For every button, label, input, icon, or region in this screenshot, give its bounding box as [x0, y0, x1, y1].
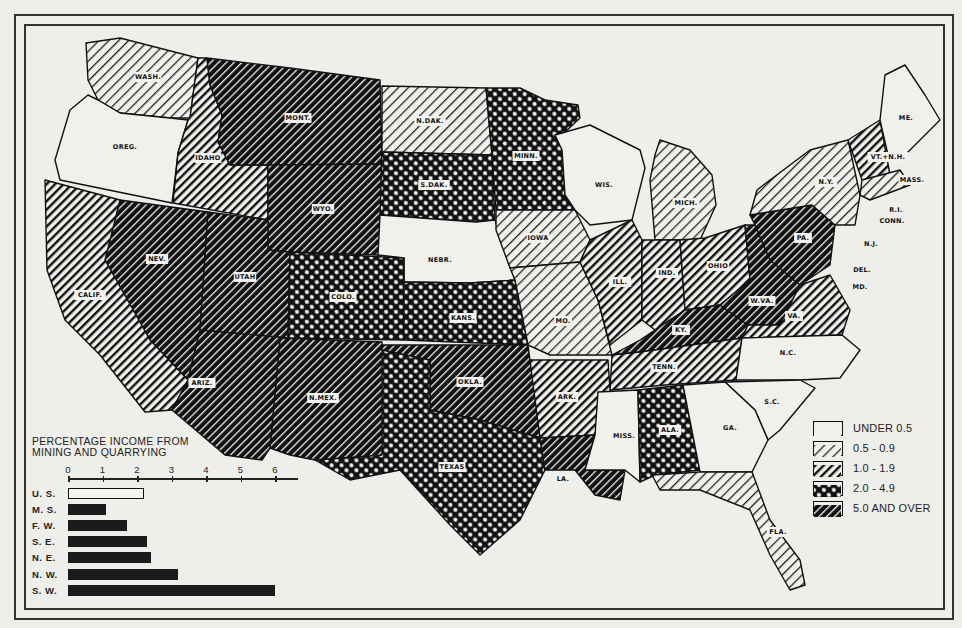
- svg-text:GA.: GA.: [723, 424, 737, 432]
- svg-text:TEXAS: TEXAS: [439, 463, 464, 471]
- state-label: ME.: [899, 114, 913, 122]
- legend-item: 1.0 - 1.9: [813, 458, 931, 478]
- state-label: NEV.: [146, 254, 168, 264]
- state-label: WIS.: [595, 181, 613, 189]
- legend-swatch: [813, 481, 843, 496]
- state-label: MO.: [554, 316, 572, 326]
- svg-text:CONN.: CONN.: [879, 217, 904, 225]
- state-label: OHIO: [707, 261, 729, 271]
- state-mont: [207, 58, 382, 165]
- svg-text:IND.: IND.: [659, 269, 676, 277]
- svg-text:N.DAK.: N.DAK.: [416, 117, 444, 125]
- svg-text:MD.: MD.: [852, 283, 867, 291]
- state-mich: [650, 140, 716, 240]
- axis-tick-label: 2: [134, 464, 139, 475]
- state-label: N.J.: [864, 240, 878, 248]
- svg-text:ILL.: ILL.: [613, 278, 627, 286]
- axis-tick: [172, 476, 174, 482]
- bar: [68, 536, 147, 547]
- svg-text:UTAH: UTAH: [235, 273, 256, 281]
- state-label: WYO.: [312, 204, 334, 214]
- legend-item: UNDER 0.5: [813, 418, 931, 438]
- state-label: GA.: [723, 424, 737, 432]
- state-label: IDAHO: [195, 153, 222, 163]
- bar-category-label: N. W.: [32, 569, 68, 580]
- state-label: N.MEX.: [307, 393, 339, 403]
- svg-text:MO.: MO.: [555, 317, 570, 325]
- state-label: UTAH: [234, 272, 256, 282]
- bar: [68, 569, 178, 580]
- svg-text:VA.: VA.: [787, 312, 800, 320]
- state-n-c: [736, 335, 860, 380]
- bar: [68, 552, 151, 563]
- state-label: MASS.: [899, 175, 926, 185]
- svg-text:WYO.: WYO.: [313, 205, 334, 213]
- bar-row: M. S.: [32, 502, 106, 516]
- svg-text:MASS.: MASS.: [900, 176, 925, 184]
- svg-text:W.VA.: W.VA.: [751, 297, 774, 305]
- legend-swatch: [813, 461, 843, 476]
- svg-text:CALIF.: CALIF.: [78, 291, 102, 299]
- axis-tick: [275, 476, 277, 482]
- svg-text:S.DAK.: S.DAK.: [421, 181, 448, 189]
- svg-text:N.MEX.: N.MEX.: [309, 394, 337, 402]
- svg-text:MICH.: MICH.: [674, 199, 697, 207]
- bar-row: F. W.: [32, 518, 127, 532]
- axis-tick-label: 6: [272, 464, 277, 475]
- svg-text:KY.: KY.: [675, 326, 687, 334]
- legend-swatch: [813, 421, 843, 436]
- state-label: ARIZ.: [189, 378, 216, 388]
- state-label: MONT.: [285, 113, 312, 123]
- bar-row: S. W.: [32, 583, 275, 597]
- bar-row: U. S.: [32, 486, 144, 500]
- svg-text:LA.: LA.: [557, 475, 570, 483]
- state-label: VA.: [785, 311, 803, 321]
- axis-tick-label: 0: [65, 464, 70, 475]
- svg-text:PA.: PA.: [797, 234, 810, 242]
- legend-label: 2.0 - 4.9: [853, 482, 895, 494]
- svg-text:FLA.: FLA.: [769, 528, 786, 536]
- axis-tick-label: 3: [169, 464, 174, 475]
- chart-title-line-2: MINING AND QUARRYING: [32, 447, 189, 458]
- svg-text:N.Y.: N.Y.: [818, 178, 833, 186]
- state-label: PA.: [794, 233, 812, 243]
- state-label: KY.: [672, 325, 690, 335]
- state-label: VT.+N.H.: [868, 152, 909, 162]
- bar-category-label: F. W.: [32, 520, 68, 531]
- state-label: IND.: [656, 268, 678, 278]
- map-legend: UNDER 0.50.5 - 0.91.0 - 1.92.0 - 4.95.0 …: [813, 418, 931, 518]
- svg-text:ARK.: ARK.: [558, 393, 577, 401]
- legend-swatch: [813, 441, 843, 456]
- svg-text:NEBR.: NEBR.: [428, 256, 452, 264]
- svg-text:ME.: ME.: [899, 114, 913, 122]
- axis-tick: [137, 476, 139, 482]
- state-label: ILL.: [609, 277, 631, 287]
- state-label: ARK.: [556, 392, 578, 402]
- bar-category-label: N. E.: [32, 552, 68, 563]
- axis-tick: [68, 476, 70, 482]
- axis-tick: [206, 476, 208, 482]
- legend-swatch: [813, 501, 843, 516]
- bar-row: S. E.: [32, 535, 147, 549]
- svg-text:VT.+N.H.: VT.+N.H.: [871, 153, 906, 161]
- state-label: OREG.: [113, 143, 137, 151]
- svg-text:KANS.: KANS.: [451, 314, 475, 322]
- state-label: FLA.: [767, 527, 789, 537]
- svg-text:OKLA.: OKLA.: [458, 378, 482, 386]
- bar: [68, 488, 144, 499]
- state-label: R.I.: [889, 206, 903, 214]
- legend-item: 5.0 AND OVER: [813, 498, 931, 518]
- svg-text:IDAHO: IDAHO: [195, 154, 220, 162]
- svg-text:ALA.: ALA.: [661, 426, 679, 434]
- bar-category-label: M. S.: [32, 504, 68, 515]
- bar-row: N. W.: [32, 567, 178, 581]
- state-label: WASH.: [135, 72, 162, 82]
- mining-income-bar-chart: PERCENTAGE INCOME FROM MINING AND QUARRY…: [32, 436, 189, 458]
- axis-tick: [103, 476, 105, 482]
- state-label: CALIF.: [74, 290, 106, 300]
- legend-label: UNDER 0.5: [853, 422, 912, 434]
- state-label: S.DAK.: [418, 180, 450, 190]
- state-label: MINN.: [513, 151, 540, 161]
- states-layer: [45, 38, 940, 590]
- legend-label: 0.5 - 0.9: [853, 442, 895, 454]
